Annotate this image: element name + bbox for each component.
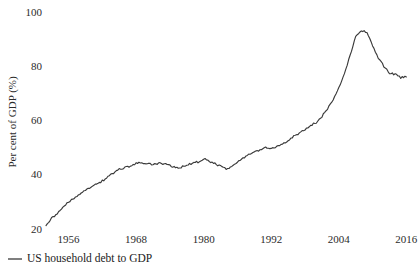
x-tick-2016: 2016 bbox=[395, 233, 418, 245]
y-tick-80: 80 bbox=[31, 60, 43, 72]
line-chart: Per cent of GDP (%) 20406080100 19561968… bbox=[0, 0, 418, 269]
x-tick-1956: 1956 bbox=[58, 233, 81, 245]
chart-legend: US household debt to GDP bbox=[8, 252, 152, 264]
y-tick-20: 20 bbox=[31, 223, 43, 235]
chart-background bbox=[0, 0, 418, 269]
y-tick-40: 40 bbox=[31, 168, 43, 180]
x-tick-1968: 1968 bbox=[125, 233, 148, 245]
x-tick-1992: 1992 bbox=[260, 233, 282, 245]
y-tick-60: 60 bbox=[31, 114, 43, 126]
x-tick-2004: 2004 bbox=[328, 233, 351, 245]
y-tick-100: 100 bbox=[26, 6, 43, 18]
chart-figure: Per cent of GDP (%) 20406080100 19561968… bbox=[0, 0, 418, 269]
y-axis-title: Per cent of GDP (%) bbox=[6, 76, 19, 168]
x-tick-1980: 1980 bbox=[193, 233, 216, 245]
legend-label: US household debt to GDP bbox=[27, 252, 152, 264]
